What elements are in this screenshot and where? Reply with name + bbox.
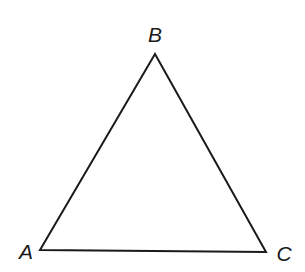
vertex-label-c: C xyxy=(276,242,292,265)
vertex-label-b: B xyxy=(148,23,162,46)
vertex-label-a: A xyxy=(17,240,33,263)
triangle-diagram: A B C xyxy=(0,0,305,272)
triangle-abc xyxy=(40,54,266,252)
